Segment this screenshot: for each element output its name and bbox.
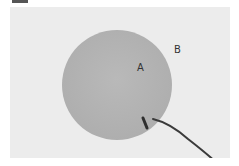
disc-a	[62, 30, 172, 140]
photo-scene	[10, 7, 230, 158]
label-b: B	[174, 45, 181, 55]
photo-panel: A B	[10, 7, 230, 158]
figure-tag-bar	[12, 0, 28, 3]
label-a: A	[137, 63, 144, 73]
